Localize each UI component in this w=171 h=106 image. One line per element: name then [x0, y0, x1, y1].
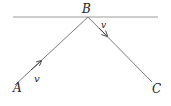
point-label-b: B	[81, 2, 91, 16]
path-segment-ab	[15, 17, 88, 85]
point-label-a: A	[12, 81, 22, 95]
velocity-arrow-incoming-icon	[31, 61, 41, 70]
velocity-label-incoming: v	[34, 73, 40, 84]
path-segment-bc	[88, 17, 152, 82]
reflection-diagram: B A C v v	[0, 0, 171, 106]
point-label-c: C	[152, 82, 161, 96]
velocity-label-outgoing: v	[101, 20, 106, 30]
